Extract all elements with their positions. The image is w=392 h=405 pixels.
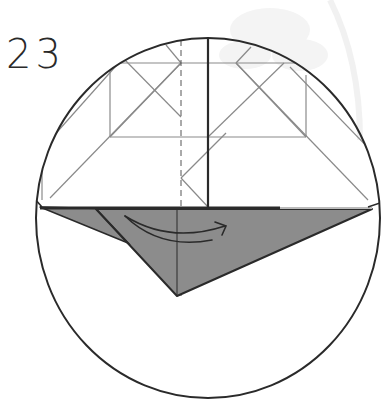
- gray-flap: [34, 198, 380, 296]
- paper-upper-creases: [42, 45, 380, 207]
- origami-diagram: [0, 0, 392, 405]
